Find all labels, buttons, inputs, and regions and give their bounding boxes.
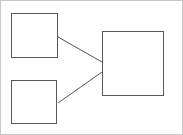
diagram-svg	[0, 0, 183, 135]
node-square-top-left[interactable]	[12, 14, 58, 58]
connector-line-bottom	[58, 72, 102, 103]
node-square-right-large[interactable]	[103, 32, 164, 96]
connector-line-top	[58, 37, 102, 62]
node-square-bottom-left[interactable]	[12, 81, 57, 124]
diagram-canvas	[0, 0, 183, 135]
